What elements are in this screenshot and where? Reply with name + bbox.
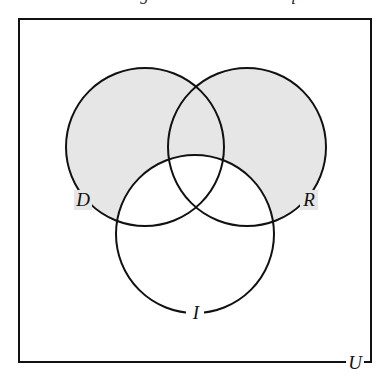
venn-diagram: D R I U bbox=[0, 0, 379, 381]
set-r-label: R bbox=[302, 189, 315, 210]
clipped-text-fragment: p bbox=[292, 0, 302, 4]
universe-label: U bbox=[348, 352, 363, 373]
clipped-text-fragment: g bbox=[140, 0, 154, 4]
shaded-region bbox=[66, 68, 326, 226]
set-d-label: D bbox=[75, 189, 90, 210]
